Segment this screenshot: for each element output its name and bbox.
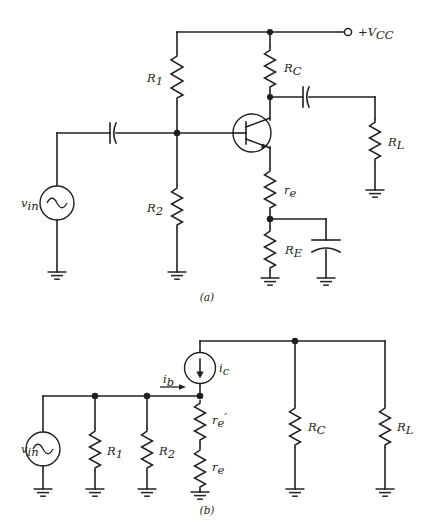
ac-source-vin bbox=[40, 186, 74, 220]
capacitor-output bbox=[270, 87, 375, 107]
resistor-re-prime-b bbox=[195, 400, 206, 443]
ground-vin-b bbox=[34, 489, 53, 496]
circuit-diagram-svg: +VCC R1 RC R2 re RE RL vin (a) bbox=[0, 0, 421, 522]
resistor-r1 bbox=[171, 52, 183, 102]
label-re-bias-a: RE bbox=[284, 243, 303, 260]
supply-terminal-icon bbox=[344, 28, 351, 35]
label-re-a: re bbox=[284, 183, 297, 200]
label-vin-b: vin bbox=[21, 442, 39, 459]
ground-r2-b bbox=[138, 489, 157, 496]
ground-re-b bbox=[191, 492, 210, 499]
ground-vin bbox=[48, 272, 67, 279]
label-rc-a: RC bbox=[283, 61, 302, 78]
resistor-rc bbox=[265, 47, 276, 90]
label-r1-b: R1 bbox=[106, 444, 123, 461]
ground-rc-b bbox=[286, 489, 305, 496]
resistor-rl-b bbox=[380, 405, 391, 448]
ground-r2 bbox=[168, 272, 187, 279]
label-re-b: re bbox=[212, 460, 225, 477]
figure-root: +VCC R1 RC R2 re RE RL vin (a) bbox=[0, 0, 421, 522]
resistor-re-b bbox=[195, 447, 206, 490]
ground-r1-b bbox=[86, 489, 105, 496]
label-supply: +VCC bbox=[358, 25, 394, 42]
resistor-re-a bbox=[265, 168, 276, 211]
capacitor-bypass bbox=[270, 219, 340, 278]
label-rl-b: RL bbox=[396, 420, 413, 437]
label-r2-b: R2 bbox=[158, 444, 175, 461]
panel-a: +VCC R1 RC R2 re RE RL vin (a) bbox=[21, 25, 404, 303]
ground-rl-b bbox=[376, 489, 395, 496]
resistor-rl-a bbox=[370, 119, 381, 162]
capacitor-input bbox=[57, 123, 177, 143]
label-r1-a: R1 bbox=[146, 71, 163, 88]
label-ic-b: ic bbox=[219, 361, 230, 378]
resistor-r2-b bbox=[142, 428, 153, 471]
label-ib-b: ib bbox=[163, 372, 174, 389]
ground-bypass-cap bbox=[317, 278, 336, 285]
resistor-rc-b bbox=[290, 405, 301, 448]
caption-b: (b) bbox=[200, 504, 215, 516]
current-source-ic bbox=[185, 353, 216, 384]
label-rc-b: RC bbox=[307, 420, 326, 437]
resistor-r1-b bbox=[90, 428, 101, 471]
ground-re bbox=[261, 278, 280, 285]
npn-transistor bbox=[233, 114, 271, 152]
label-re-prime-b: re′ bbox=[212, 410, 227, 430]
resistor-r2 bbox=[172, 185, 183, 228]
ground-rl bbox=[366, 190, 385, 197]
caption-a: (a) bbox=[200, 291, 214, 303]
label-r2-a: R2 bbox=[146, 201, 163, 218]
label-vin-a: vin bbox=[21, 196, 39, 213]
panel-b: vin R1 R2 re′ re RC RL ic ib (b) bbox=[21, 338, 413, 516]
resistor-re-bias bbox=[265, 228, 276, 271]
label-rl-a: RL bbox=[387, 135, 404, 152]
